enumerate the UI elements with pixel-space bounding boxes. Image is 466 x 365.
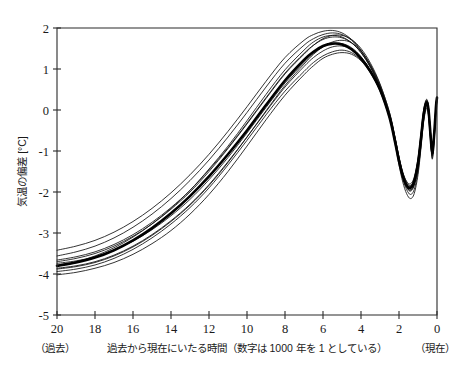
axes-layer: [53, 28, 437, 319]
chart-line-ensemble-8: [57, 35, 437, 265]
x-tick-label-12: 12: [203, 322, 216, 336]
chart-line-ensemble-2: [57, 33, 437, 256]
axis-labels-layer: 210-1-2-3-4-520181614121086420気温の偏差 [°C]…: [16, 22, 455, 355]
x-tick-label-14: 14: [165, 322, 178, 336]
chart-line-ensemble-4: [57, 43, 437, 263]
chart-line-ensemble-9: [57, 40, 437, 269]
chart-line-ensemble-10: [57, 35, 437, 262]
x-tick-label-10: 10: [241, 322, 254, 336]
chart-line-ensemble-5: [57, 46, 437, 268]
x-tick-label-4: 4: [358, 322, 365, 336]
y-tick-label--3: -3: [39, 227, 49, 241]
x-axis-right-note: （現在）: [415, 342, 455, 354]
y-tick-label--2: -2: [39, 186, 49, 200]
y-tick-label-1: 1: [43, 63, 49, 77]
y-tick-label-0: 0: [43, 104, 49, 118]
x-tick-label-2: 2: [396, 322, 402, 336]
x-tick-label-20: 20: [51, 322, 64, 336]
chart-canvas: 210-1-2-3-4-520181614121086420気温の偏差 [°C]…: [0, 0, 466, 365]
y-tick-label--5: -5: [39, 309, 49, 323]
chart-line-ensemble-3: [57, 37, 437, 260]
x-tick-label-0: 0: [434, 322, 440, 336]
curve-layer: [57, 30, 437, 274]
plot-frame: [57, 28, 437, 315]
x-tick-label-18: 18: [89, 322, 102, 336]
x-tick-label-6: 6: [320, 322, 326, 336]
y-axis-title: 気温の偏差 [°C]: [16, 136, 28, 207]
y-tick-label-2: 2: [43, 22, 49, 36]
x-axis-title: 過去から現在にいたる時間（数字は 1000 年を 1 としている）: [107, 342, 388, 354]
x-tick-label-8: 8: [282, 322, 288, 336]
temperature-anomaly-chart: 210-1-2-3-4-520181614121086420気温の偏差 [°C]…: [0, 0, 466, 365]
x-axis-left-note: （過去）: [35, 342, 75, 354]
y-tick-label--1: -1: [39, 145, 49, 159]
y-tick-label--4: -4: [39, 268, 50, 282]
x-tick-label-16: 16: [127, 322, 140, 336]
